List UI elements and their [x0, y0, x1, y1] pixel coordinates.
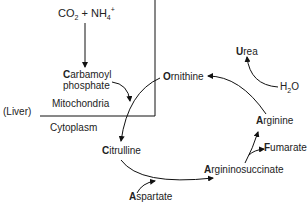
citrulline-rest: itrulline: [109, 145, 141, 156]
nh4-text: + NH: [78, 7, 106, 19]
arginine-rest: rginine: [263, 115, 293, 126]
co2-text: CO: [58, 7, 75, 19]
fumarate-label: Fumarate: [264, 142, 307, 153]
cytoplasm-label: Cytoplasm: [50, 122, 97, 133]
carbamoyl-phosphate-label: Carbamoyl phosphate: [63, 69, 111, 91]
fumarate-rest: umarate: [270, 142, 307, 153]
ornithine-label: Ornithine: [163, 71, 204, 82]
argininosuccinate-label: Argininosuccinate: [204, 164, 284, 175]
liver-label: (Liver): [3, 106, 31, 117]
arrow-argininosuccinate-to-arginine: [245, 132, 258, 163]
arrow-arginine-to-ornithine: [208, 76, 266, 114]
nh4-subscript: 4: [107, 14, 111, 21]
arrow-carbamoyl-to-citrulline: [112, 82, 130, 101]
mitochondria-label: Mitochondria: [52, 98, 109, 109]
arrow-water-to-urea: [247, 57, 278, 87]
nh4-charge: +: [111, 6, 115, 13]
arrow-citrulline-to-argininosuccinate: [121, 160, 213, 180]
arginine-label: Arginine: [256, 115, 293, 126]
urea-label: Urea: [236, 46, 258, 57]
reactants-label: CO2 + NH4+: [58, 8, 115, 19]
ornithine-initial: O: [163, 71, 171, 82]
citrulline-label: Citrulline: [102, 145, 141, 156]
aspartate-label: Aspartate: [129, 191, 172, 202]
ornithine-rest: rnithine: [171, 71, 204, 82]
carbamoyl-line2: phosphate: [63, 80, 110, 91]
urea-rest: rea: [243, 46, 257, 57]
water-o: O: [291, 81, 299, 92]
pathway-arrows: [0, 0, 307, 207]
water-label: H2O: [280, 81, 299, 92]
carbamoyl-rest: arbamoyl: [70, 69, 111, 80]
arrow-ornithine-to-citrulline: [121, 78, 160, 141]
argininosuccinate-rest: rgininosuccinate: [211, 164, 283, 175]
aspartate-rest: spartate: [136, 191, 172, 202]
